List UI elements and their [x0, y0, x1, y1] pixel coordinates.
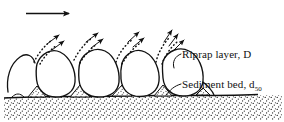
sediment-bed-label-subscript: 50: [255, 85, 262, 93]
sediment-bed-label: Sediment bed, d50: [182, 78, 262, 93]
sediment-bed: [4, 95, 282, 121]
riprap-layer-label: Riprap layer, D: [182, 48, 251, 60]
diagram-canvas: [0, 0, 284, 122]
riprap-scour-diagram: Riprap layer, D Sediment bed, d50: [0, 0, 284, 122]
sediment-bed-label-text: Sediment bed, d: [182, 78, 255, 90]
riprap-stone-partial: [8, 55, 36, 92]
riprap-stone: [36, 51, 75, 97]
